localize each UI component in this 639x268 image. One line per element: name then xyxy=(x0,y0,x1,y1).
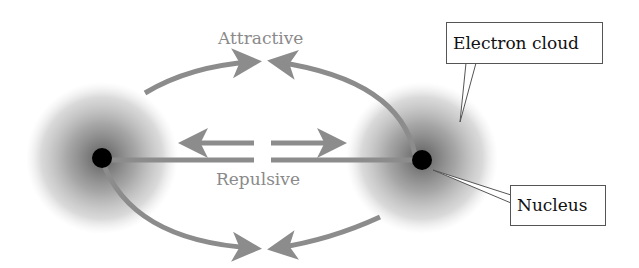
nucleus-callout: Nucleus xyxy=(510,185,606,226)
repulsive-label: Repulsive xyxy=(216,169,300,189)
electron-cloud-callout: Electron cloud xyxy=(446,22,603,64)
attractive-arrow-bottom-right xyxy=(277,217,380,248)
right-nucleus xyxy=(412,150,432,170)
left-nucleus xyxy=(92,148,112,168)
attractive-arrow-top-left xyxy=(145,62,252,93)
attractive-label: Attractive xyxy=(218,28,303,48)
